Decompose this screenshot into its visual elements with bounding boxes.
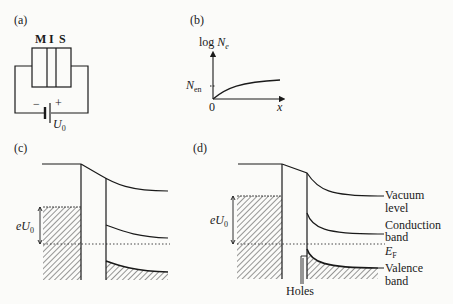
x-axis-label: x	[277, 101, 282, 113]
fermi-level-label: EF	[385, 245, 397, 260]
layer-m-label: M	[35, 33, 46, 45]
metal-filled-states-d	[237, 196, 282, 279]
panel-c-label: (c)	[14, 142, 27, 154]
eu0-label-c: eU0	[16, 220, 34, 235]
conduction-band-curve-d	[307, 213, 378, 234]
density-curve	[213, 80, 280, 99]
band-diagram-c	[38, 164, 170, 280]
metal-filled-states	[43, 207, 81, 280]
vacuum-level-curve	[81, 164, 168, 191]
battery-minus-label: −	[33, 98, 40, 110]
nen-tick-label: Nen	[186, 79, 202, 94]
panel-a-label: (a)	[14, 14, 27, 26]
mis-stack	[32, 48, 71, 87]
vacuum-level-label-1: Vacuum	[385, 189, 424, 201]
valence-band-label-2: band	[385, 275, 408, 287]
conduction-band-curve	[106, 225, 168, 238]
vacuum-level-label-2: level	[385, 202, 408, 214]
eu0-label-d: eU0	[210, 214, 228, 229]
conduction-band-label-2: band	[385, 231, 408, 243]
voltage-label: U0	[53, 118, 66, 133]
y-axis-label: log Ne	[199, 36, 229, 51]
layer-i-label: I	[49, 33, 54, 45]
panel-b-label: (b)	[190, 14, 204, 26]
band-diagram-d	[231, 164, 385, 284]
valence-band-label-1: Valence	[385, 262, 423, 274]
mis-circuit	[15, 48, 88, 123]
holes-pointer	[301, 256, 307, 284]
panel-d-label: (d)	[193, 142, 207, 154]
layer-s-label: S	[59, 33, 66, 45]
battery-plus-label: +	[55, 97, 62, 109]
vacuum-level-curve-d	[282, 164, 378, 196]
holes-label: Holes	[286, 285, 314, 297]
valence-filled-states-d	[307, 249, 378, 279]
density-graph	[210, 54, 282, 99]
origin-label: 0	[209, 101, 215, 113]
